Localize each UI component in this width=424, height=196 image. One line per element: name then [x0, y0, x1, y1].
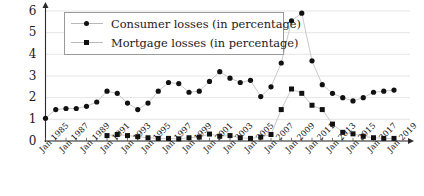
- legend-label-mortgage: Mortgage losses (in percentage): [111, 35, 299, 51]
- legend-label-consumer: Consumer losses (in percentage): [111, 16, 301, 32]
- x-axis-arrow-icon: [408, 138, 414, 144]
- square-marker-icon: [84, 40, 89, 45]
- y-axis-tick-label: 0: [23, 135, 37, 147]
- y-axis-arrow-icon: [43, 2, 49, 8]
- legend-item-consumer: Consumer losses (in percentage): [65, 14, 283, 34]
- y-axis-tick-label: 6: [23, 5, 37, 17]
- chart-container: 0123456 Jan 1985Jan 1987Jan 1989Jan 1991…: [0, 0, 424, 196]
- circle-marker-icon: [84, 21, 89, 26]
- y-axis-tick-label: 2: [23, 91, 37, 103]
- y-axis-tick-label: 1: [23, 113, 37, 125]
- y-axis-tick-label: 3: [23, 70, 37, 82]
- chart-legend: Consumer losses (in percentage) Mortgage…: [64, 12, 284, 55]
- legend-item-mortgage: Mortgage losses (in percentage): [65, 33, 283, 53]
- y-axis-tick-label: 5: [23, 26, 37, 38]
- y-axis-tick-label: 4: [23, 48, 37, 60]
